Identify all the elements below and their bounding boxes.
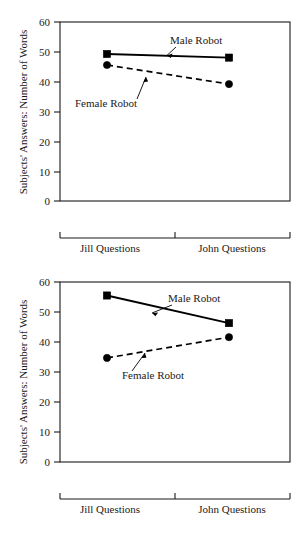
bottom-ytick-20: 20 xyxy=(39,396,51,408)
bottom-ytick-60: 60 xyxy=(39,276,51,288)
top-marker-male-john xyxy=(225,54,232,61)
top-label-female-robot: Female Robot xyxy=(75,97,137,109)
top-category-label-john: John Questions xyxy=(198,242,266,254)
chart-panel-bottom: Subjects' Answers: Number of Words 60 50… xyxy=(0,269,305,534)
top-marker-female-john xyxy=(225,81,232,88)
bottom-ytick-40: 40 xyxy=(39,336,51,348)
bottom-ytick-50: 50 xyxy=(39,306,51,318)
bottom-series-female-robot-line xyxy=(107,337,229,358)
bottom-chart-svg: Subjects' Answers: Number of Words 60 50… xyxy=(0,269,305,534)
bottom-marker-male-jill xyxy=(103,292,110,299)
top-ytick-10: 10 xyxy=(39,166,51,178)
top-leader-arrow-female xyxy=(143,77,148,82)
top-ytick-60: 60 xyxy=(39,16,51,28)
bottom-y-axis-title: Subjects' Answers: Number of Words xyxy=(17,300,29,465)
top-chart-svg: Subjects' Answers: Number of Words 60 50… xyxy=(0,0,305,265)
bottom-ytick-30: 30 xyxy=(39,366,51,378)
chart-panel-top: Subjects' Answers: Number of Words 60 50… xyxy=(0,0,305,265)
bottom-category-label-jill: Jill Questions xyxy=(80,503,140,515)
top-ytick-20: 20 xyxy=(39,136,51,148)
bottom-label-male-robot: Male Robot xyxy=(168,292,220,304)
top-y-axis-title: Subjects' Answers: Number of Words xyxy=(17,30,29,195)
top-ytick-40: 40 xyxy=(39,76,51,88)
bottom-marker-female-jill xyxy=(103,354,110,361)
bottom-marker-male-john xyxy=(225,320,232,327)
top-category-label-jill: Jill Questions xyxy=(80,242,140,254)
top-marker-female-jill xyxy=(103,61,110,68)
bottom-ytick-10: 10 xyxy=(39,426,51,438)
top-ytick-0: 0 xyxy=(45,195,51,207)
top-series-female-robot-line xyxy=(107,65,229,84)
bottom-marker-female-john xyxy=(225,334,232,341)
bottom-ytick-0: 0 xyxy=(45,456,51,468)
bottom-leader-arrow-male xyxy=(152,312,158,316)
bottom-label-female-robot: Female Robot xyxy=(122,369,184,381)
bottom-category-label-john: John Questions xyxy=(198,503,266,515)
top-ytick-30: 30 xyxy=(39,106,51,118)
top-plot-frame xyxy=(60,22,290,201)
top-marker-male-jill xyxy=(103,50,110,57)
top-ytick-50: 50 xyxy=(39,46,51,58)
top-label-male-robot: Male Robot xyxy=(170,34,222,46)
